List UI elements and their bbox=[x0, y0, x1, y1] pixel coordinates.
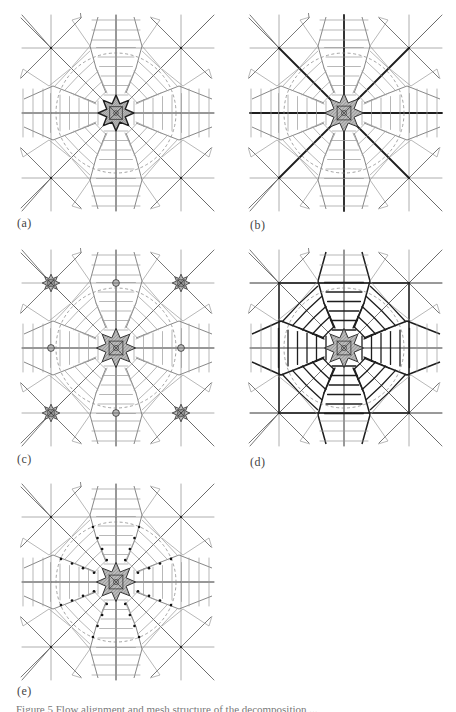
panel-label-c: (c) bbox=[17, 452, 32, 467]
panel-label-b: (b) bbox=[250, 218, 266, 233]
panel-e-diagram bbox=[20, 482, 216, 682]
panel-e bbox=[20, 482, 216, 682]
panel-label-d: (d) bbox=[250, 455, 266, 470]
panel-d bbox=[248, 248, 444, 448]
panel-a bbox=[20, 13, 216, 213]
panel-b-diagram bbox=[248, 13, 444, 213]
panel-b bbox=[248, 13, 444, 213]
panel-label-e: (e) bbox=[17, 684, 32, 699]
panel-c-diagram bbox=[20, 248, 216, 448]
panel-label-a: (a) bbox=[17, 216, 32, 231]
figure-caption: Figure 5 Flow alignment and mesh structu… bbox=[16, 700, 446, 712]
panel-a-diagram bbox=[20, 13, 216, 213]
panel-c bbox=[20, 248, 216, 448]
panel-d-diagram bbox=[248, 248, 444, 448]
